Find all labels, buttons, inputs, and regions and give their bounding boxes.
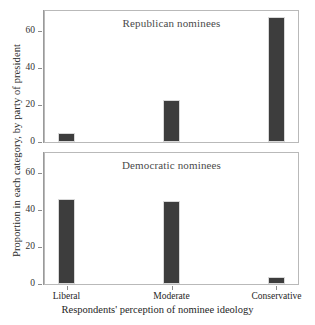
y-tick-label: 40 <box>26 62 36 72</box>
y-axis-title: Proportion in each category, by party of… <box>11 7 22 295</box>
y-tick-label: 20 <box>26 99 36 109</box>
y-tick-label: 0 <box>30 278 35 288</box>
y-tick-mark <box>38 105 42 106</box>
y-tick-label: 20 <box>26 241 36 251</box>
panel-republican-nominees: Republican nominees <box>44 10 299 143</box>
bar-democratic-conservative <box>268 277 285 284</box>
y-tick-mark <box>38 31 42 32</box>
panel-democratic-nominees: Democratic nominees <box>44 152 299 285</box>
x-tick-label-moderate: Moderate <box>153 291 189 301</box>
y-tick-label: 60 <box>26 167 36 177</box>
bar-democratic-liberal <box>58 199 75 284</box>
x-tick-label-liberal: Liberal <box>53 291 80 301</box>
y-tick-mark <box>38 68 42 69</box>
plot-area-republican <box>45 11 298 142</box>
y-tick-label: 40 <box>26 204 36 214</box>
bar-chart-figure: Proportion in each category, by party of… <box>0 0 315 325</box>
x-axis-title: Respondents' perception of nominee ideol… <box>0 304 315 315</box>
y-tick-mark <box>38 284 42 285</box>
bar-republican-moderate <box>163 100 180 142</box>
bar-republican-conservative <box>268 17 285 142</box>
x-tick-label-conservative: Conservative <box>251 291 301 301</box>
y-tick-label: 0 <box>30 136 35 146</box>
bar-democratic-moderate <box>163 201 180 284</box>
bar-republican-liberal <box>58 133 75 142</box>
y-tick-mark <box>38 247 42 248</box>
x-tick-mark-conservative <box>276 286 277 290</box>
y-tick-mark <box>38 173 42 174</box>
plot-area-democratic <box>45 153 298 284</box>
y-tick-mark <box>38 210 42 211</box>
x-tick-mark-moderate <box>172 286 173 290</box>
y-tick-mark <box>38 142 42 143</box>
y-tick-label: 60 <box>26 25 36 35</box>
x-tick-mark-liberal <box>67 286 68 290</box>
